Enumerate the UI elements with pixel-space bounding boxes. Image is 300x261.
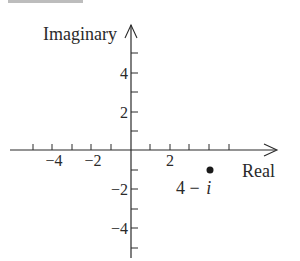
y-tick-label: 4	[120, 65, 128, 82]
x-tick-label: −2	[84, 152, 101, 169]
cropped-caption-fragment	[8, 0, 83, 3]
point-4-minus-i	[207, 167, 214, 174]
imaginary-axis-label: Imaginary	[43, 24, 117, 44]
y-tick-label: 2	[120, 104, 128, 121]
point-label: 4 − i	[176, 178, 211, 198]
x-tick-label: −4	[45, 152, 62, 169]
complex-plane-diagram: −4 −2 2 4 2 −2 −4 Imaginary Real 4 − i	[0, 0, 300, 261]
x-tick-label: 2	[166, 152, 174, 169]
real-axis-label: Real	[242, 161, 275, 181]
y-tick-label: −2	[111, 181, 128, 198]
y-tick-label: −4	[111, 220, 128, 237]
